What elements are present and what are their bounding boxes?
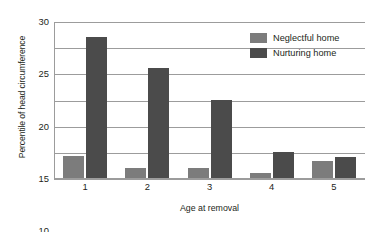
- x-axis-tick-label: 3: [178, 181, 240, 192]
- bar-chart: Percentile of head circumference 0510152…: [0, 0, 379, 232]
- legend-label: Nurturing home: [273, 48, 336, 58]
- y-axis-tick-label: 15: [39, 173, 49, 184]
- legend: Neglectful home Nurturing home: [250, 33, 339, 58]
- x-axis-line: [54, 178, 365, 179]
- y-axis-tick-label: 10: [39, 226, 49, 232]
- legend-label: Neglectful home: [273, 33, 339, 43]
- bar: [335, 157, 356, 178]
- x-axis-tick-label: 2: [116, 181, 178, 192]
- x-axis-tick-labels: 12345: [54, 181, 365, 192]
- x-axis-tick-label: 5: [303, 181, 365, 192]
- bar: [148, 68, 169, 178]
- legend-item-nurturing: Nurturing home: [250, 48, 339, 58]
- bar: [312, 161, 333, 178]
- x-axis-title: Age at removal: [54, 203, 365, 213]
- y-axis-tick-label: 25: [39, 69, 49, 80]
- gridline: 0: [54, 179, 365, 180]
- legend-swatch-icon: [250, 33, 267, 43]
- bar: [125, 168, 146, 178]
- bar: [250, 173, 271, 178]
- bar-group: [116, 22, 178, 178]
- y-axis-title: Percentile of head circumference: [17, 12, 27, 182]
- bar: [273, 152, 294, 178]
- legend-item-neglectful: Neglectful home: [250, 33, 339, 43]
- bar: [63, 156, 84, 179]
- y-axis-tick-label: 30: [39, 16, 49, 27]
- bar: [188, 168, 209, 178]
- bar: [211, 100, 232, 179]
- x-axis-tick-label: 4: [241, 181, 303, 192]
- legend-swatch-icon: [250, 48, 267, 58]
- bar: [86, 37, 107, 178]
- bar-group: [178, 22, 240, 178]
- bar-group: [54, 22, 116, 178]
- y-axis-tick-label: 20: [39, 121, 49, 132]
- x-axis-tick-label: 1: [54, 181, 116, 192]
